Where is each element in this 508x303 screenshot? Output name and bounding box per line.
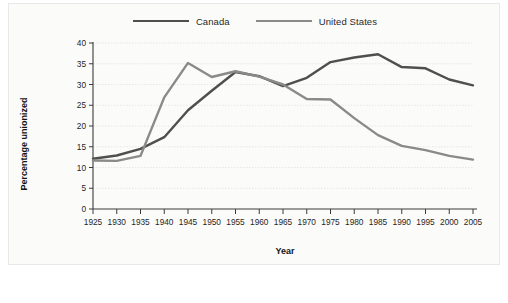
y-tick-label-35: 35 [77,59,87,69]
y-tick-label-10: 10 [77,163,87,173]
y-tick-label-15: 15 [77,142,87,152]
grid-lines [93,43,473,188]
x-tick-label-1925: 1925 [84,217,103,227]
y-tick-label-40: 40 [77,38,87,48]
y-tick-label-25: 25 [77,100,87,110]
y-axis-title: Percentage unionized [19,97,29,190]
chart-plot-area: 0510152025303540 19251930193519401945195… [9,4,501,266]
y-tick-label-0: 0 [81,204,86,214]
x-tick-label-1985: 1985 [369,217,388,227]
x-tick-label-1940: 1940 [155,217,174,227]
x-tick-label-1955: 1955 [226,217,245,227]
y-tick-label-20: 20 [77,121,87,131]
data-series [93,54,473,161]
x-tick-label-1980: 1980 [345,217,364,227]
chart-figure-panel: Canada United States 0510152025303540 19… [8,3,500,265]
y-tick-label-5: 5 [81,183,86,193]
x-tick-label-2000: 2000 [440,217,459,227]
y-axis-tick-labels: 0510152025303540 [77,38,87,214]
line-chart-svg: 0510152025303540 19251930193519401945195… [9,4,501,266]
x-axis-title: Year [275,246,295,256]
series-line-united-states [93,63,473,161]
y-tick-label-30: 30 [77,80,87,90]
x-tick-label-1950: 1950 [203,217,222,227]
x-tick-label-1965: 1965 [274,217,293,227]
x-tick-label-1960: 1960 [250,217,269,227]
x-tick-label-2005: 2005 [464,217,483,227]
x-tick-label-1975: 1975 [321,217,340,227]
x-tick-label-1935: 1935 [131,217,150,227]
x-axis-tick-labels: 1925193019351940194519501955196019651970… [84,217,483,227]
x-tick-label-1990: 1990 [393,217,412,227]
x-tick-label-1995: 1995 [416,217,435,227]
x-tick-label-1945: 1945 [179,217,198,227]
x-tick-label-1970: 1970 [298,217,317,227]
x-tick-label-1930: 1930 [108,217,127,227]
series-line-canada [93,54,473,159]
